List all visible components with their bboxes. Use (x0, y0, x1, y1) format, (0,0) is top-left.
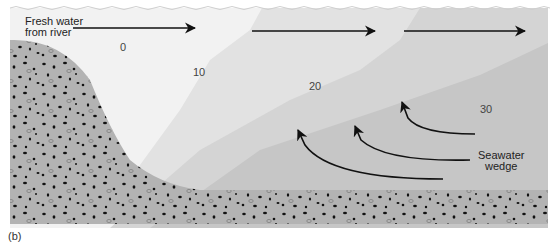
salinity-label-0: 0 (120, 41, 126, 53)
fresh-water-label-line2: from river (25, 27, 83, 38)
salinity-label-20: 20 (309, 80, 321, 92)
salinity-label-30: 30 (480, 103, 492, 115)
estuary-salt-wedge-diagram (0, 0, 560, 248)
salinity-label-10: 10 (193, 66, 205, 78)
seawater-wedge-label: Seawater wedge (478, 150, 524, 172)
fresh-water-label: Fresh water from river (25, 16, 83, 38)
seawater-label-line2: wedge (478, 161, 524, 172)
panel-label: (b) (8, 230, 21, 242)
